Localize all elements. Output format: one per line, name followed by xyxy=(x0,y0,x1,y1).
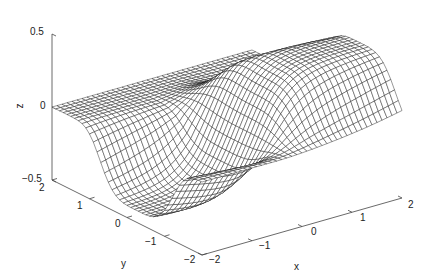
x-tick-label: −1 xyxy=(259,241,270,251)
z-axis-label: z xyxy=(15,104,25,109)
y-tick-label: 0 xyxy=(115,219,121,229)
y-tick-label: −1 xyxy=(145,237,156,247)
y-axis-label: y xyxy=(121,259,126,269)
x-tick-label: 0 xyxy=(311,227,317,237)
x-tick-label: 2 xyxy=(408,200,414,210)
z-tick-label: 0 xyxy=(40,101,46,111)
y-tick-label: 1 xyxy=(77,201,83,211)
x-tick-label: −2 xyxy=(209,255,220,265)
y-tick-label: −2 xyxy=(184,255,195,265)
z-tick-label: 0.5 xyxy=(30,27,44,37)
surface-plot xyxy=(0,0,431,280)
surface-mesh xyxy=(52,36,402,217)
x-axis-label: x xyxy=(294,262,299,272)
y-tick-label: 2 xyxy=(39,183,45,193)
x-tick-label: 1 xyxy=(360,213,366,223)
